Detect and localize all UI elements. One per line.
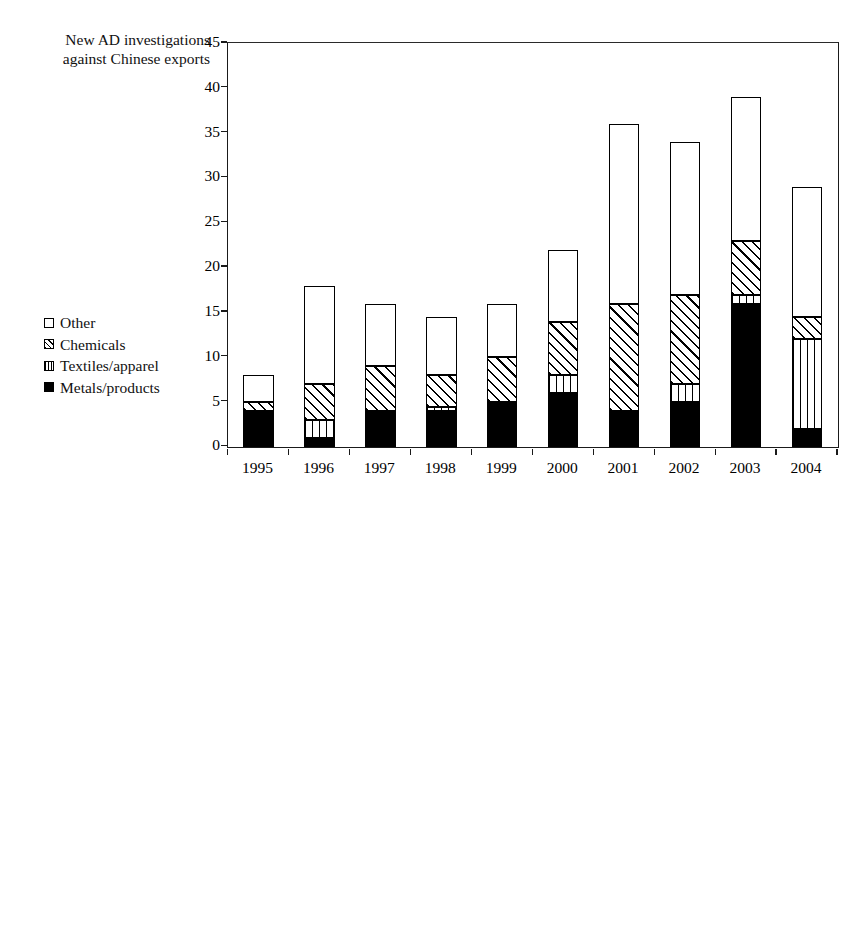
bar-segment <box>243 411 273 447</box>
legend-swatch-textiles-icon <box>44 361 54 371</box>
bar-segment <box>609 411 639 447</box>
x-tick-mark <box>349 449 350 455</box>
bar-segment <box>731 304 761 447</box>
bar-segment <box>365 366 395 411</box>
x-tick-label: 2001 <box>608 459 639 477</box>
bar-segment <box>487 402 517 447</box>
bar-1997 <box>365 44 395 447</box>
legend-swatch-chemicals-icon <box>44 339 54 349</box>
bar-segment <box>243 402 273 411</box>
bar-segment <box>548 393 578 447</box>
bar-2004 <box>792 44 822 447</box>
bar-segment <box>426 375 456 406</box>
bar-1999 <box>487 44 517 447</box>
x-tick-mark <box>288 449 289 455</box>
top-chart-plot-area <box>227 42 839 448</box>
bar-2001 <box>609 44 639 447</box>
bar-segment <box>548 375 578 393</box>
legend-item-textiles: Textiles/apparel <box>44 355 160 377</box>
bar-segment <box>487 304 517 358</box>
x-tick-mark <box>654 449 655 455</box>
bar-segment <box>304 286 334 385</box>
x-tick-label: 2003 <box>729 459 760 477</box>
bar-segment <box>670 384 700 402</box>
legend-label: Textiles/apparel <box>60 355 159 377</box>
y-tick-label: 40 <box>180 78 227 96</box>
y-tick-label: 10 <box>180 347 227 365</box>
bar-segment <box>304 384 334 420</box>
bar-segment <box>609 304 639 412</box>
bar-segment <box>792 339 822 429</box>
y-tick-label: 35 <box>180 123 227 141</box>
bar-segment <box>243 375 273 402</box>
y-tick-label: 45 <box>180 33 227 51</box>
x-tick-mark <box>471 449 472 455</box>
top-chart-x-axis: 1995199619971998199920002001200220032004 <box>227 455 839 485</box>
bar-segment <box>365 304 395 367</box>
bar-segment <box>670 295 700 385</box>
x-tick-mark <box>410 449 411 455</box>
legend-label: Other <box>60 312 95 334</box>
y-tick-label: 20 <box>180 257 227 275</box>
bar-segment <box>426 407 456 411</box>
y-tick-label: 0 <box>180 436 227 454</box>
bar-segment <box>304 438 334 447</box>
legend-swatch-other-icon <box>44 318 54 328</box>
x-tick-label: 2002 <box>669 459 700 477</box>
bar-2000 <box>548 44 578 447</box>
x-tick-label: 2004 <box>790 459 821 477</box>
legend-item-metals: Metals/products <box>44 377 160 399</box>
x-tick-label: 1996 <box>303 459 334 477</box>
y-tick-label: 30 <box>180 167 227 185</box>
y-tick-label: 15 <box>180 302 227 320</box>
bar-segment <box>304 420 334 438</box>
legend-label: Metals/products <box>60 377 160 399</box>
legend-swatch-metals-icon <box>44 382 54 392</box>
x-tick-label: 1999 <box>486 459 517 477</box>
x-tick-label: 1995 <box>242 459 273 477</box>
bar-segment <box>731 97 761 240</box>
x-tick-mark <box>593 449 594 455</box>
bar-segment <box>792 429 822 447</box>
bottom-chart-panel: China's exports, $U.S. billions 05101520… <box>0 495 854 928</box>
x-tick-mark <box>227 449 228 455</box>
bar-1996 <box>304 44 334 447</box>
bar-segment <box>609 124 639 303</box>
bar-segment <box>731 241 761 295</box>
bar-segment <box>792 187 822 317</box>
bar-segment <box>426 411 456 447</box>
top-chart-legend: OtherChemicalsTextiles/apparelMetals/pro… <box>44 312 160 398</box>
x-tick-mark <box>532 449 533 455</box>
y-tick-label: 25 <box>180 212 227 230</box>
legend-item-other: Other <box>44 312 160 334</box>
bar-segment <box>426 317 456 375</box>
y-tick-label: 5 <box>180 392 227 410</box>
top-chart-bars <box>228 43 838 447</box>
x-tick-mark <box>836 449 837 455</box>
x-tick-label: 2000 <box>547 459 578 477</box>
bar-2002 <box>670 44 700 447</box>
bar-segment <box>548 250 578 322</box>
bar-1995 <box>243 44 273 447</box>
bar-segment <box>670 142 700 294</box>
bar-segment <box>731 295 761 304</box>
bar-segment <box>365 411 395 447</box>
x-tick-label: 1998 <box>425 459 456 477</box>
bar-2003 <box>731 44 761 447</box>
x-tick-mark <box>775 449 776 455</box>
bar-segment <box>670 402 700 447</box>
legend-item-chemicals: Chemicals <box>44 334 160 356</box>
bar-segment <box>792 317 822 339</box>
bar-1998 <box>426 44 456 447</box>
x-tick-label: 1997 <box>364 459 395 477</box>
bar-segment <box>487 357 517 402</box>
legend-label: Chemicals <box>60 334 125 356</box>
top-chart-panel: New AD investigations against Chinese ex… <box>0 0 854 495</box>
bar-segment <box>548 322 578 376</box>
top-chart-y-axis: 051015202530354045 <box>181 42 227 448</box>
x-tick-mark <box>715 449 716 455</box>
